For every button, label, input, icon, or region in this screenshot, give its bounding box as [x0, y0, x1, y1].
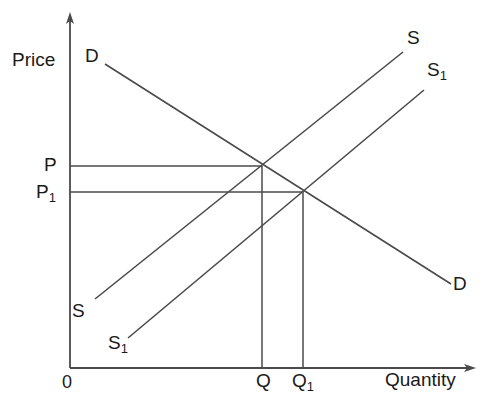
supply-shifted-label-lower-text: S [108, 332, 121, 353]
quantity-tick-q1-text: Q [292, 370, 307, 391]
quantity-tick-q1-subscript: 1 [307, 379, 314, 394]
supply-shifted-label-upper-text: S [427, 59, 440, 80]
price-tick-p1: P1 [36, 182, 56, 201]
chart-canvas [0, 0, 496, 419]
price-tick-p-text: P [44, 154, 57, 175]
supply-shifted-label-lower-subscript: 1 [121, 341, 128, 356]
supply-curve-shifted [128, 90, 424, 338]
supply-curve-original [95, 52, 403, 299]
origin-label: 0 [62, 373, 72, 391]
demand-label-lower: D [453, 274, 467, 293]
price-tick-p1-text: P [36, 181, 49, 202]
quantity-tick-q: Q [256, 371, 271, 390]
y-axis-title: Price [12, 50, 55, 69]
price-tick-p1-subscript: 1 [49, 190, 56, 205]
supply-label-upper: S [407, 28, 420, 47]
quantity-tick-q-text: Q [256, 370, 271, 391]
quantity-tick-q1: Q1 [292, 371, 314, 390]
supply-shifted-label-upper: S1 [427, 60, 447, 79]
price-tick-p: P [44, 155, 57, 174]
x-axis-title: Quantity [385, 370, 456, 389]
supply-shifted-label-upper-subscript: 1 [440, 68, 447, 83]
demand-curve [105, 64, 451, 284]
supply-label-lower: S [72, 301, 85, 320]
supply-demand-chart: Price Quantity 0 P P1 Q Q1 D D S S S1 S1 [0, 0, 496, 419]
demand-label-upper: D [85, 46, 99, 65]
supply-shifted-label-lower: S1 [108, 333, 128, 352]
